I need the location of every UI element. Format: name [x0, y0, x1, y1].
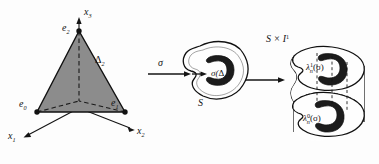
simplex-region-label: Δ2	[95, 54, 105, 67]
vertex-dot-e0	[34, 109, 39, 114]
panel-simplex: x3 x1 x2 e2 e0 e1 Δ2	[7, 6, 145, 143]
axis-x3-arrowhead	[76, 17, 81, 24]
axis-x1-arrowhead	[24, 132, 32, 137]
vertex-label-e0: e0	[19, 98, 27, 111]
axis-x2-arrowhead	[128, 127, 135, 132]
arrow-inclusion	[246, 77, 285, 83]
prism-label: S × I1	[266, 33, 289, 44]
blob-s-label: S	[198, 97, 203, 108]
vertex-dot-e2	[76, 28, 81, 33]
figure-svg: x3 x1 x2 e2 e0 e1 Δ2 σ	[0, 0, 379, 164]
panel-space-s: σ(Δ2) S	[183, 42, 248, 108]
vertex-dot-e1	[122, 109, 127, 114]
panel-prism: S × I1 λ1n(σ) λ0n(σ)	[266, 33, 364, 141]
image-region-label: σ(Δ2)	[211, 68, 230, 80]
axis-x2-label: x2	[136, 125, 145, 138]
arrow-sigma-label: σ	[158, 57, 164, 68]
arrow-sigma-head	[184, 71, 191, 77]
vertex-label-e2: e2	[62, 22, 70, 35]
axis-x1-label: x1	[7, 130, 16, 143]
prism-bottom-region-label: λ0n(σ)	[302, 112, 321, 125]
axis-x3-label: x3	[83, 6, 92, 19]
figure-container: x3 x1 x2 e2 e0 e1 Δ2 σ	[0, 0, 379, 164]
prism-top-region-label: λ1n(σ)	[305, 61, 324, 74]
arrow-inclusion-head	[278, 77, 285, 83]
